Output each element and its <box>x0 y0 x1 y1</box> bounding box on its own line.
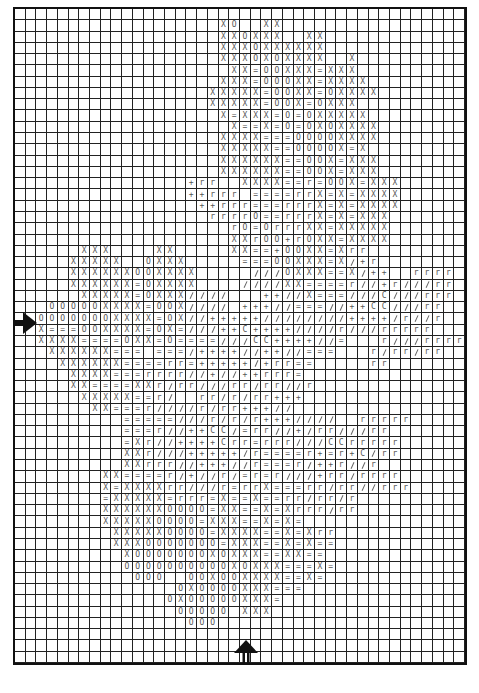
grid-cell <box>240 280 251 291</box>
grid-cell <box>144 235 155 246</box>
grid-cell <box>58 223 69 234</box>
grid-cell: r <box>261 392 272 403</box>
grid-cell <box>154 43 165 54</box>
grid-cell <box>58 212 69 223</box>
grid-cell <box>326 381 337 392</box>
grid-cell: O <box>304 235 315 246</box>
grid-cell <box>315 516 326 527</box>
grid-cell <box>69 110 80 121</box>
grid-cell <box>369 20 380 31</box>
grid-cell: = <box>294 110 305 121</box>
grid-cell: X <box>283 528 294 539</box>
grid-cell <box>154 212 165 223</box>
grid-cell <box>15 562 26 573</box>
grid-cell <box>294 629 305 640</box>
grid-cell: = <box>294 122 305 133</box>
grid-cell: = <box>326 347 337 358</box>
grid-cell <box>90 133 101 144</box>
grid-cell: + <box>251 404 262 415</box>
grid-cell: r <box>304 212 315 223</box>
grid-cell <box>347 359 358 370</box>
grid-cell: X <box>379 201 390 212</box>
grid-cell: X <box>144 505 155 516</box>
grid-cell <box>219 235 230 246</box>
grid-cell: X <box>90 257 101 268</box>
grid-cell: r <box>369 415 380 426</box>
grid-cell: r <box>229 392 240 403</box>
grid-cell: r <box>229 437 240 448</box>
grid-cell: = <box>154 359 165 370</box>
grid-cell <box>369 528 380 539</box>
grid-cell: + <box>261 404 272 415</box>
grid-cell: = <box>101 336 112 347</box>
grid-cell: O <box>186 595 197 606</box>
grid-cell <box>411 629 422 640</box>
grid-cell: X <box>336 246 347 257</box>
grid-cell: O <box>165 562 176 573</box>
grid-cell <box>261 280 272 291</box>
grid-cell <box>379 562 390 573</box>
grid-cell: = <box>90 381 101 392</box>
grid-cell <box>26 167 37 178</box>
grid-cell <box>26 460 37 471</box>
grid-cell <box>26 189 37 200</box>
grid-cell <box>444 110 455 121</box>
grid-cell: + <box>219 460 230 471</box>
grid-cell <box>390 359 401 370</box>
grid-cell: = <box>133 415 144 426</box>
grid-cell: r <box>433 336 444 347</box>
grid-cell: O <box>165 550 176 561</box>
grid-cell <box>47 77 58 88</box>
grid-cell: O <box>315 133 326 144</box>
grid-cell <box>58 189 69 200</box>
grid-cell: r <box>251 449 262 460</box>
grid-cell <box>154 178 165 189</box>
grid-cell <box>154 595 165 606</box>
grid-cell <box>390 652 401 663</box>
grid-cell: r <box>272 359 283 370</box>
grid-cell <box>176 629 187 640</box>
grid-cell: X <box>336 110 347 121</box>
grid-cell <box>15 595 26 606</box>
grid-cell <box>186 9 197 20</box>
grid-cell: = <box>272 201 283 212</box>
grid-cell <box>79 652 90 663</box>
grid-cell <box>433 246 444 257</box>
grid-cell <box>111 595 122 606</box>
grid-cell <box>186 404 197 415</box>
grid-cell: X <box>251 595 262 606</box>
grid-cell: X <box>229 550 240 561</box>
grid-cell: C <box>326 437 337 448</box>
grid-cell <box>69 99 80 110</box>
grid-cell <box>186 235 197 246</box>
grid-cell <box>411 505 422 516</box>
grid-cell: = <box>347 189 358 200</box>
grid-cell <box>90 640 101 651</box>
grid-cell: X <box>240 88 251 99</box>
grid-cell: r <box>240 381 251 392</box>
grid-cell <box>422 144 433 155</box>
grid-cell <box>261 640 272 651</box>
grid-cell: = <box>251 257 262 268</box>
grid-cell <box>133 133 144 144</box>
grid-cell <box>283 640 294 651</box>
grid-cell <box>90 189 101 200</box>
grid-cell <box>294 313 305 324</box>
grid-cell <box>358 640 369 651</box>
grid-cell <box>186 212 197 223</box>
grid-cell <box>186 32 197 43</box>
grid-cell: = <box>315 573 326 584</box>
grid-cell <box>358 607 369 618</box>
grid-cell: O <box>197 584 208 595</box>
grid-cell: + <box>283 325 294 336</box>
grid-cell: r <box>401 325 412 336</box>
grid-cell: + <box>272 246 283 257</box>
grid-cell: r <box>433 280 444 291</box>
grid-cell <box>208 144 219 155</box>
grid-cell <box>165 99 176 110</box>
grid-cell: r <box>444 336 455 347</box>
grid-cell <box>326 505 337 516</box>
grid-cell <box>208 122 219 133</box>
grid-cell <box>433 54 444 65</box>
grid-cell <box>390 223 401 234</box>
